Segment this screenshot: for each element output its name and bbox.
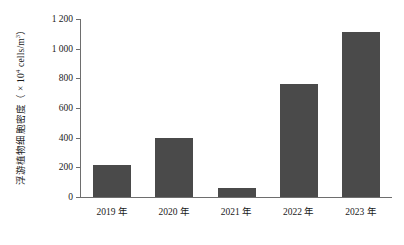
y-axis-tick-mark — [76, 49, 80, 50]
y-axis-tick-label: 600 — [59, 103, 73, 113]
bar[interactable] — [280, 84, 318, 197]
y-axis-title-text: 浮游植物细胞密度（ × 104 cells/m3） — [13, 25, 27, 186]
bar-slot — [81, 19, 143, 197]
bar-chart: 浮游植物细胞密度（ × 104 cells/m3） 02004006008001… — [0, 0, 404, 245]
bar[interactable] — [155, 138, 193, 197]
bar-slot — [205, 19, 267, 197]
x-axis-label: 2021 年 — [205, 204, 267, 218]
y-axis-tick-mark — [76, 78, 80, 79]
y-axis-tick-label: 1 000 — [52, 44, 73, 54]
bar-slot — [330, 19, 392, 197]
y-axis-title-exponent2: 3 — [14, 35, 21, 38]
y-axis-tick-label: 1 200 — [52, 14, 73, 24]
x-axis-label: 2023 年 — [330, 204, 392, 218]
bar[interactable] — [218, 188, 256, 197]
y-axis-tick-label: 200 — [59, 162, 73, 172]
y-axis-title-suffix: cells/m — [16, 38, 26, 69]
x-axis-labels: 2019 年2020 年2021 年2022 年2023 年 — [81, 204, 392, 218]
y-axis-tick-mark — [76, 167, 80, 168]
y-axis-tick-mark — [76, 108, 80, 109]
bar-slot — [143, 19, 205, 197]
x-axis-line — [80, 197, 392, 198]
y-axis-tick-label: 400 — [59, 133, 73, 143]
y-axis-title-tail: ） — [16, 25, 26, 35]
y-axis-tick-mark — [76, 138, 80, 139]
bar-series — [81, 19, 392, 197]
bar-slot — [268, 19, 330, 197]
y-axis-tick-label: 0 — [68, 192, 73, 202]
bar[interactable] — [93, 165, 131, 197]
y-axis-tick-label: 800 — [59, 73, 73, 83]
y-axis-title: 浮游植物细胞密度（ × 104 cells/m3） — [8, 0, 32, 210]
bar[interactable] — [342, 32, 380, 197]
y-axis-title-exponent: 4 — [14, 70, 21, 73]
x-axis-label: 2020 年 — [143, 204, 205, 218]
y-axis-tick-mark — [76, 19, 80, 20]
x-axis-label: 2022 年 — [268, 204, 330, 218]
x-axis-label: 2019 年 — [81, 204, 143, 218]
y-axis-title-prefix: 浮游植物细胞密度（ × 10 — [16, 73, 26, 185]
y-axis-tick-mark — [76, 197, 80, 198]
plot-area: 02004006008001 0001 200 — [80, 19, 392, 197]
